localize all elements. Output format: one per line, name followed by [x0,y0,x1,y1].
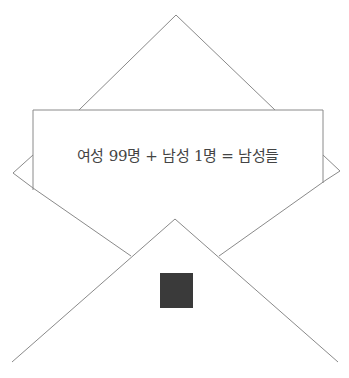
envelope-diagram [0,0,349,378]
envelope-left-fold-line [33,188,131,256]
envelope-right-fold-line [219,180,326,256]
envelope-left-side-flap [13,155,33,188]
envelope-right-side-flap [323,155,340,180]
stamp-icon [160,273,193,308]
letter-text: 여성 99명 + 남성 1명 = 남성들 [33,144,323,165]
envelope-top-flap [79,15,275,110]
